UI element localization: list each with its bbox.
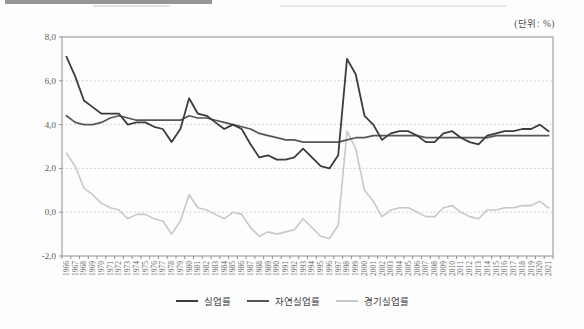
svg-text:2018: 2018 bbox=[518, 261, 527, 276]
legend-item-natural-rate: 자연실업률 bbox=[247, 294, 320, 308]
svg-text:2008: 2008 bbox=[430, 261, 439, 276]
svg-text:2015: 2015 bbox=[492, 261, 501, 276]
svg-text:1993: 1993 bbox=[299, 261, 308, 276]
svg-text:1971: 1971 bbox=[106, 261, 115, 276]
svg-text:1988: 1988 bbox=[255, 261, 264, 276]
svg-text:1996: 1996 bbox=[325, 261, 334, 276]
svg-text:2016: 2016 bbox=[500, 261, 509, 276]
svg-text:1978: 1978 bbox=[167, 261, 176, 276]
svg-text:2001: 2001 bbox=[369, 261, 378, 276]
legend-label-cyclical: 경기실업률 bbox=[364, 294, 409, 308]
svg-text:2002: 2002 bbox=[378, 261, 387, 276]
svg-text:1983: 1983 bbox=[211, 261, 220, 276]
svg-text:1982: 1982 bbox=[202, 261, 211, 276]
legend-line-swatch-natural bbox=[247, 300, 269, 302]
svg-text:2012: 2012 bbox=[465, 261, 474, 276]
svg-text:1969: 1969 bbox=[88, 261, 97, 276]
chart-legend: 실업률 자연실업률 경기실업률 bbox=[0, 294, 584, 308]
legend-item-unemployment-rate: 실업률 bbox=[176, 294, 231, 308]
svg-text:2011: 2011 bbox=[456, 261, 465, 276]
svg-text:0,0: 0,0 bbox=[45, 207, 57, 217]
svg-text:1999: 1999 bbox=[351, 261, 360, 276]
svg-text:1985: 1985 bbox=[228, 261, 237, 276]
svg-text:1968: 1968 bbox=[79, 261, 88, 276]
svg-text:1995: 1995 bbox=[316, 261, 325, 276]
svg-text:2017: 2017 bbox=[509, 261, 518, 276]
svg-text:8,0: 8,0 bbox=[45, 32, 57, 42]
svg-text:1970: 1970 bbox=[97, 261, 106, 276]
svg-text:1989: 1989 bbox=[264, 261, 273, 276]
svg-text:1991: 1991 bbox=[281, 261, 290, 276]
svg-text:2009: 2009 bbox=[439, 261, 448, 276]
svg-text:1987: 1987 bbox=[246, 261, 255, 276]
svg-text:2020: 2020 bbox=[535, 261, 544, 276]
legend-label-natural: 자연실업률 bbox=[275, 294, 320, 308]
svg-text:-2,0: -2,0 bbox=[42, 251, 57, 261]
svg-text:1980: 1980 bbox=[185, 261, 194, 276]
svg-text:1977: 1977 bbox=[158, 261, 167, 276]
svg-text:1986: 1986 bbox=[237, 261, 246, 276]
legend-label-unemployment: 실업률 bbox=[204, 294, 231, 308]
legend-line-swatch-unemployment bbox=[176, 300, 198, 302]
svg-text:2014: 2014 bbox=[483, 261, 492, 276]
unemployment-line-chart: 8,06,04,02,00,0-2,0196619671968196919701… bbox=[0, 0, 584, 329]
svg-text:1998: 1998 bbox=[342, 261, 351, 276]
svg-text:2000: 2000 bbox=[360, 261, 369, 276]
svg-text:1979: 1979 bbox=[176, 261, 185, 276]
svg-text:1984: 1984 bbox=[220, 261, 229, 276]
svg-text:6,0: 6,0 bbox=[45, 76, 57, 86]
svg-text:1976: 1976 bbox=[150, 261, 159, 276]
svg-text:4,0: 4,0 bbox=[45, 120, 57, 130]
svg-text:1973: 1973 bbox=[123, 261, 132, 276]
svg-text:1974: 1974 bbox=[132, 261, 141, 276]
svg-text:1997: 1997 bbox=[334, 261, 343, 276]
svg-text:1994: 1994 bbox=[307, 261, 316, 276]
svg-text:2005: 2005 bbox=[404, 261, 413, 276]
svg-text:2019: 2019 bbox=[527, 261, 536, 276]
svg-text:1981: 1981 bbox=[193, 261, 202, 276]
legend-line-swatch-cyclical bbox=[336, 300, 358, 302]
svg-text:2010: 2010 bbox=[448, 261, 457, 276]
svg-text:2003: 2003 bbox=[386, 261, 395, 276]
legend-item-cyclical-rate: 경기실업률 bbox=[336, 294, 409, 308]
svg-text:1967: 1967 bbox=[71, 261, 80, 276]
svg-text:1990: 1990 bbox=[272, 261, 281, 276]
svg-text:2004: 2004 bbox=[395, 261, 404, 276]
svg-text:2021: 2021 bbox=[544, 261, 553, 276]
svg-text:1966: 1966 bbox=[62, 261, 71, 276]
svg-text:1992: 1992 bbox=[290, 261, 299, 276]
svg-text:2013: 2013 bbox=[474, 261, 483, 276]
figure-canvas: (단위: %) 8,06,04,02,00,0-2,01966196719681… bbox=[0, 0, 584, 329]
svg-text:1975: 1975 bbox=[141, 261, 150, 276]
svg-text:2,0: 2,0 bbox=[45, 163, 57, 173]
svg-text:2007: 2007 bbox=[421, 261, 430, 276]
svg-text:2006: 2006 bbox=[413, 261, 422, 276]
svg-text:1972: 1972 bbox=[114, 261, 123, 276]
